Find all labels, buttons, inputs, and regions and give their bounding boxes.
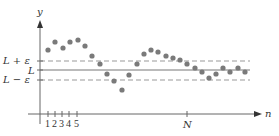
data-point [170,55,175,60]
data-point [220,65,225,70]
data-point [163,53,168,58]
x-tick-label-N: N [182,119,193,130]
data-point [184,61,189,66]
x-tick-label-2: 2 [52,118,57,129]
data-point [134,61,139,66]
data-point [155,49,160,54]
x-axis-arrow-icon [254,111,262,117]
data-point [111,78,116,83]
data-point [52,39,57,44]
data-point [82,43,87,48]
x-axis-label: n [265,108,271,119]
data-point [199,69,204,74]
data-point [45,47,50,52]
sequence-points [45,37,247,92]
data-point [235,65,240,70]
data-point [60,45,65,50]
x-tick-label-1: 1 [45,118,50,129]
upper-bound-label: L + ε [2,55,30,66]
x-tick-label-5: 5 [74,118,79,129]
lower-bound-label: L − ε [2,74,30,85]
data-point [67,39,72,44]
data-point [192,65,197,70]
sequence-limit-chart: y n L + ε L L − ε 1 2 3 4 5 N [0,0,279,136]
data-point [206,75,211,80]
x-tick-label-3: 3 [59,118,64,129]
data-point [242,69,247,74]
data-point [227,69,232,74]
data-point [89,53,94,58]
data-point [213,71,218,76]
data-point [141,51,146,56]
data-point [148,47,153,52]
data-point [177,57,182,62]
data-point [126,72,131,77]
y-axis-label: y [36,6,43,17]
data-point [104,71,109,76]
y-axis-arrow-icon [37,20,43,28]
data-point [119,87,124,92]
data-point [97,61,102,66]
data-point [75,37,80,42]
x-tick-label-4: 4 [66,118,71,129]
